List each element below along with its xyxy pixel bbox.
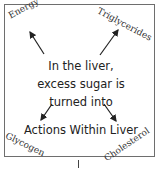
diagram-title: Actions Within Liver (10, 123, 152, 137)
center-statement: In the liver, excess sugar is turned int… (20, 57, 142, 111)
arrow-to-energy (30, 32, 44, 54)
arrow-to-triglycerides (100, 30, 118, 55)
center-line-3: turned into (20, 93, 142, 111)
center-line-1: In the liver, (20, 57, 142, 75)
connector-tick (78, 160, 79, 168)
center-line-2: excess sugar is (20, 75, 142, 93)
